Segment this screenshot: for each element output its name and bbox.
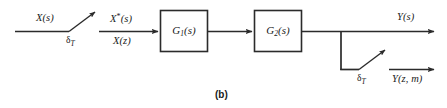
figure-caption: (b) [215,89,228,100]
input-sampler-label: δT [66,35,75,48]
label-output-zm: Y(z, m) [392,73,422,84]
output-sampler-arm [359,50,385,70]
g1-label-arg: (s) [184,24,196,36]
g2-block-label: G2(s) [255,24,302,38]
g2-label-arg: (s) [278,24,290,36]
label-input-s: X(s) [36,12,54,23]
label-sampled-z: X(z) [113,35,131,46]
label-sampled-star: X*(s) [110,12,132,24]
g1-block-label: G1(s) [161,24,208,38]
output-sampler-subscript: T [361,77,365,86]
output-sampler-label: δT [357,73,366,86]
label-output-s: Y(s) [397,11,414,22]
input-sampler-arm [69,12,95,32]
input-sampler-subscript: T [70,39,74,48]
block-diagram-figure: X(s) δT X*(s) X(z) G1(s) G2(s) Y(s) δT Y… [0,0,447,108]
